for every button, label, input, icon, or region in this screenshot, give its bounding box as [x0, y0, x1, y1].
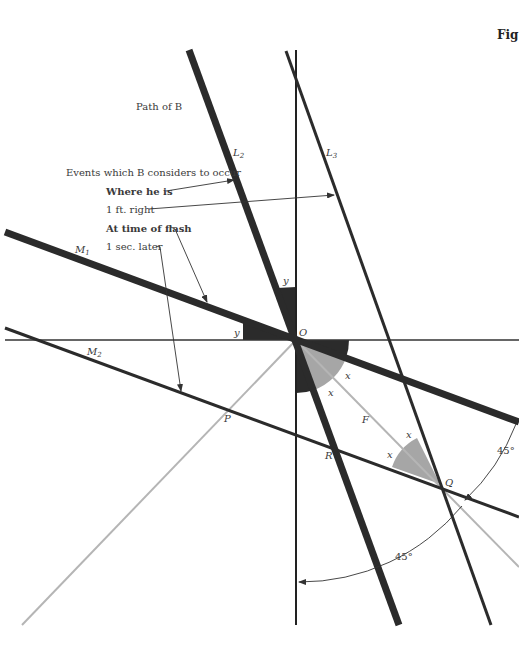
arrow-one-sec-later [156, 246, 181, 391]
line-l3 [286, 51, 491, 625]
light-line [22, 340, 296, 625]
line-m2 [5, 328, 519, 517]
arc-45-right [465, 424, 516, 500]
m2-label: M2 [86, 346, 102, 359]
angle-x-o-lower-label: x [328, 387, 334, 398]
angle-x-o-right-label: x [345, 370, 351, 381]
one-ft-right-label: 1 ft. right [106, 204, 154, 215]
arrow-where-he-is [166, 180, 234, 191]
spacetime-diagram: Path of B Events which B considers to oc… [0, 0, 519, 649]
l2-label: L2 [232, 147, 245, 160]
line-m1 [5, 232, 519, 422]
f-label: F [361, 414, 370, 425]
angle-x-q-upper-label: x [406, 429, 412, 440]
where-he-is-label: Where he is [105, 186, 173, 197]
angle-45-bottom-label: 45° [395, 551, 413, 562]
angle-x-q-left-label: x [387, 449, 393, 460]
point-p-label: P [223, 413, 231, 424]
point-o-label: O [299, 327, 307, 338]
angle-y-top-label: y [282, 275, 289, 286]
at-time-of-flash-label: At time of flash [105, 223, 192, 234]
l3-label: L3 [325, 147, 338, 160]
events-heading-label: Events which B considers to occur [66, 167, 241, 178]
point-q-label: Q [445, 477, 453, 488]
point-r-label: R [324, 450, 333, 461]
one-sec-later-label: 1 sec. later [106, 241, 163, 252]
angle-y-left-label: y [233, 327, 240, 338]
path-of-b-label: Path of B [136, 101, 182, 112]
arrow-at-time-of-flash [171, 227, 207, 302]
angle-45-right-label: 45° [497, 445, 515, 456]
